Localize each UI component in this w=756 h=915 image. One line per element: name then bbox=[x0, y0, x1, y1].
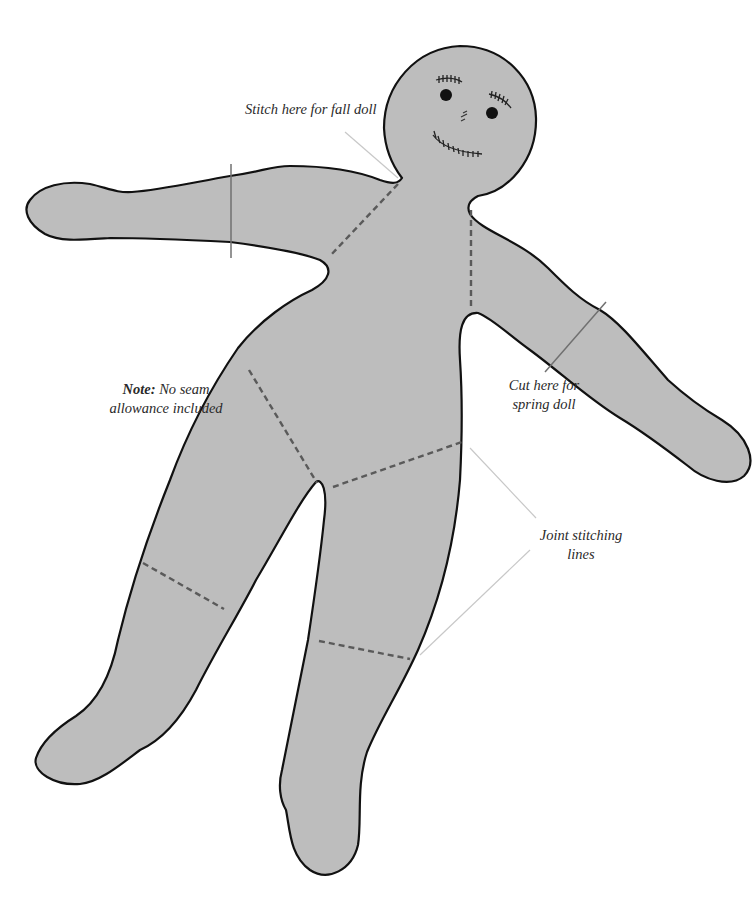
spring-doll-cut-label: Cut here for spring doll bbox=[494, 376, 594, 414]
fall-doll-stitch-label: Stitch here for fall doll bbox=[245, 100, 377, 119]
doll-pattern-diagram: Stitch here for fall doll Note: No seam … bbox=[0, 0, 756, 915]
joint-stitching-label: Joint stitching lines bbox=[536, 526, 626, 564]
seam-allowance-note: Note: No seam allowance included bbox=[106, 380, 226, 418]
left-eye bbox=[440, 89, 452, 101]
right-eye bbox=[486, 107, 498, 119]
note-prefix: Note: bbox=[123, 381, 156, 397]
